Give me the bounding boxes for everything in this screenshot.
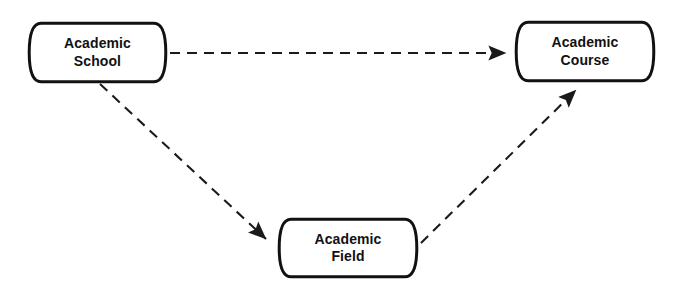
node-academic-field[interactable]: Academic Field — [277, 217, 419, 279]
node-label-academic-school: Academic School — [27, 21, 168, 84]
node-label-academic-course: Academic Course — [514, 20, 656, 83]
node-academic-school[interactable]: Academic School — [27, 21, 168, 84]
diagram-canvas: Academic School Academic Course Academic… — [0, 0, 676, 301]
node-label-academic-field: Academic Field — [277, 217, 419, 279]
node-academic-course[interactable]: Academic Course — [514, 20, 656, 83]
edge-field-to-course — [421, 90, 576, 243]
edge-school-to-field — [100, 84, 266, 239]
